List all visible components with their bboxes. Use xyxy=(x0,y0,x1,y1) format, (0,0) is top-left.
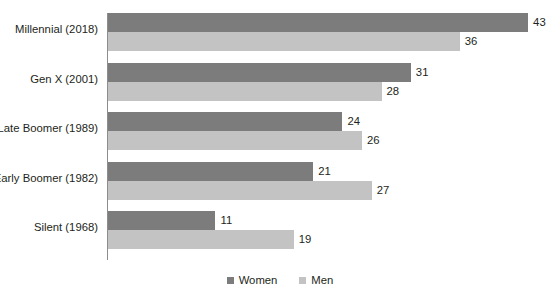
bar-value-label: 36 xyxy=(465,33,478,50)
category-label: Early Boomer (1982) xyxy=(0,172,98,185)
bar-men[interactable] xyxy=(108,230,294,249)
plot-area: Millennial (2018)4336Gen X (2001)3128Lat… xyxy=(0,0,560,262)
legend-swatch-icon xyxy=(299,277,306,284)
category-group: Millennial (2018)4336 xyxy=(0,13,560,55)
bar-men[interactable] xyxy=(108,181,372,200)
bar-value-label: 28 xyxy=(387,83,400,100)
bar-women[interactable] xyxy=(108,63,411,82)
legend-item[interactable]: Women xyxy=(227,274,278,287)
category-label: Millennial (2018) xyxy=(0,23,98,36)
category-label: Silent (1968) xyxy=(0,221,98,234)
legend-label: Women xyxy=(239,274,278,287)
category-label: Late Boomer (1989) xyxy=(0,122,98,135)
bar-value-label: 43 xyxy=(533,14,546,31)
legend-label: Men xyxy=(311,274,333,287)
bar-women[interactable] xyxy=(108,162,313,181)
chart-legend: WomenMen xyxy=(0,274,560,287)
bar-value-label: 31 xyxy=(416,64,429,81)
bar-men[interactable] xyxy=(108,32,460,51)
bar-value-label: 19 xyxy=(299,231,312,248)
bar-value-label: 27 xyxy=(377,182,390,199)
category-label: Gen X (2001) xyxy=(0,73,98,86)
bar-men[interactable] xyxy=(108,82,382,101)
bar-value-label: 26 xyxy=(367,132,380,149)
category-group: Early Boomer (1982)2127 xyxy=(0,162,560,204)
legend-swatch-icon xyxy=(227,277,234,284)
category-group: Silent (1968)1119 xyxy=(0,211,560,253)
bar-value-label: 21 xyxy=(318,163,331,180)
category-group: Late Boomer (1989)2426 xyxy=(0,112,560,154)
category-group: Gen X (2001)3128 xyxy=(0,63,560,105)
bar-women[interactable] xyxy=(108,211,215,230)
bar-women[interactable] xyxy=(108,112,342,131)
bar-men[interactable] xyxy=(108,131,362,150)
legend-item[interactable]: Men xyxy=(299,274,333,287)
bar-chart: Millennial (2018)4336Gen X (2001)3128Lat… xyxy=(0,0,560,296)
bar-women[interactable] xyxy=(108,13,528,32)
bar-value-label: 24 xyxy=(347,113,360,130)
bar-value-label: 11 xyxy=(220,212,232,229)
